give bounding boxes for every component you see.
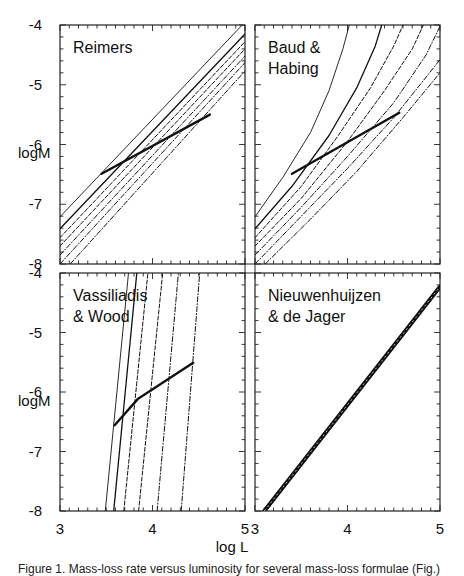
- track-line: [265, 73, 440, 264]
- locus-line: [102, 115, 210, 174]
- track-line: [255, 25, 423, 246]
- y-axis-title-bottom: logM: [18, 392, 51, 409]
- panel-grid: ReimersBaud &HabingVassiliadis& WoodNieu…: [60, 25, 440, 511]
- panel-label: Baud &: [268, 39, 321, 56]
- panel-baud-habing: Baud &Habing: [255, 25, 440, 264]
- y-tick-label: -8: [29, 502, 42, 519]
- x-tick-label: 3: [251, 520, 259, 537]
- track-line: [255, 60, 440, 264]
- y-tick-label: -4: [29, 264, 42, 281]
- x-axis-title: log L: [216, 538, 249, 555]
- panel-label: Reimers: [73, 39, 133, 56]
- track-line: [70, 71, 245, 264]
- panel-reimers: Reimers: [60, 25, 245, 264]
- x-tick-label: 5: [436, 520, 444, 537]
- track-line: [60, 56, 245, 255]
- panel-label: & Wood: [73, 308, 130, 325]
- panel-vassiliadis-wood: Vassiliadis& Wood: [60, 273, 245, 511]
- panel-nieuwenhuijzen-de-jager: Nieuwenhuijzen& de Jager: [255, 273, 440, 511]
- locus-line: [292, 113, 399, 174]
- x-tick-label: 4: [148, 520, 156, 537]
- track-line: [60, 49, 245, 246]
- x-tick-labels: 345345: [56, 520, 444, 537]
- track-line: [157, 273, 178, 511]
- y-tick-labels: -4-5-6-7-8-4-5-6-7-8: [29, 16, 42, 519]
- track-line: [60, 34, 245, 229]
- x-tick-label: 3: [56, 520, 64, 537]
- panel-label: & de Jager: [268, 308, 346, 325]
- panel-frame: [60, 25, 245, 264]
- y-tick-label: -7: [29, 195, 42, 212]
- x-tick-label: 4: [343, 520, 351, 537]
- y-tick-label: -5: [29, 324, 42, 341]
- panel-label: Vassiliadis: [73, 287, 147, 304]
- track-line: [181, 273, 200, 511]
- track-line: [60, 63, 245, 264]
- panel-label: Habing: [268, 60, 319, 77]
- track-line: [60, 42, 245, 238]
- y-axis-title-top: logM: [18, 144, 51, 161]
- axis-ticks: [60, 25, 245, 264]
- series-group: [60, 25, 245, 264]
- locus-line: [115, 363, 194, 426]
- x-tick-label: 5: [241, 520, 249, 537]
- y-tick-label: -7: [29, 443, 42, 460]
- figure-caption: Figure 1. Mass-loss rate versus luminosi…: [18, 562, 440, 576]
- y-tick-label: -5: [29, 76, 42, 93]
- y-tick-label: -4: [29, 16, 42, 33]
- panel-label: Nieuwenhuijzen: [268, 287, 381, 304]
- panel-gap-box: [245, 264, 255, 273]
